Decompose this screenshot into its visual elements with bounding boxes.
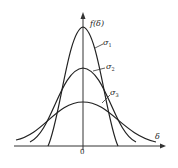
plot-canvas [0, 0, 178, 168]
normal-distribution-diagram: f(δ) σ1 σ2 σ3 δ 0 [0, 0, 178, 168]
sigma2-label: σ2 [106, 63, 115, 72]
sigma1-leader [95, 44, 103, 48]
x-axis-arrow-icon [160, 144, 166, 149]
sigma1-label: σ1 [103, 39, 112, 48]
y-axis-label: f(δ) [90, 20, 104, 28]
x-axis-label: δ [155, 133, 160, 141]
sigma3-label: σ3 [110, 89, 119, 98]
y-axis-arrow-icon [81, 12, 86, 19]
origin-label: 0 [80, 149, 84, 156]
